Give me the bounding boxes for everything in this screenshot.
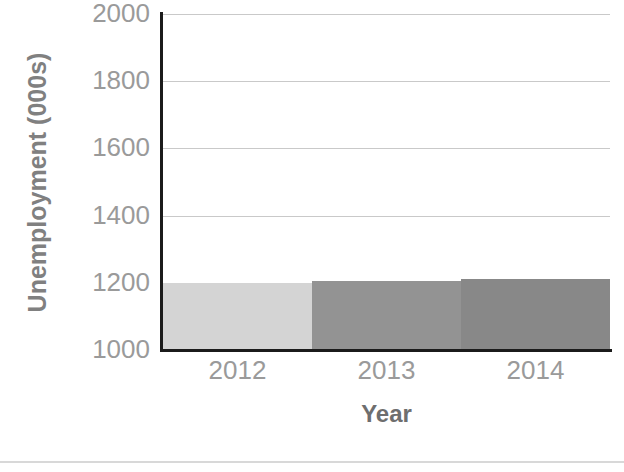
y-tick-label-1800: 1800	[50, 67, 150, 93]
y-tick-label-2000: 2000	[50, 0, 150, 26]
y-tick-label-1600: 1600	[50, 134, 150, 160]
y-axis-line	[160, 12, 163, 352]
bottom-divider	[0, 461, 624, 463]
y-tick-label-1200: 1200	[50, 269, 150, 295]
y-axis-tick-labels: 200018001600140012001000	[45, 0, 150, 472]
y-tick-label-1400: 1400	[50, 202, 150, 228]
bar-2014	[461, 279, 610, 350]
bar-chart-figure: Unemployment (000s) 20001800160014001200…	[0, 0, 624, 472]
x-tick-label-2013: 2013	[312, 357, 461, 383]
x-axis-line	[160, 349, 612, 352]
x-axis-title: Year	[163, 400, 610, 428]
bars-layer	[163, 14, 610, 350]
x-tick-label-2014: 2014	[461, 357, 610, 383]
x-axis-tick-labels: 201220132014	[163, 357, 610, 397]
plot-area	[163, 14, 610, 350]
bar-2013	[312, 281, 461, 350]
bar-2012	[163, 283, 312, 350]
y-tick-label-1000: 1000	[50, 336, 150, 362]
x-tick-label-2012: 2012	[163, 357, 312, 383]
